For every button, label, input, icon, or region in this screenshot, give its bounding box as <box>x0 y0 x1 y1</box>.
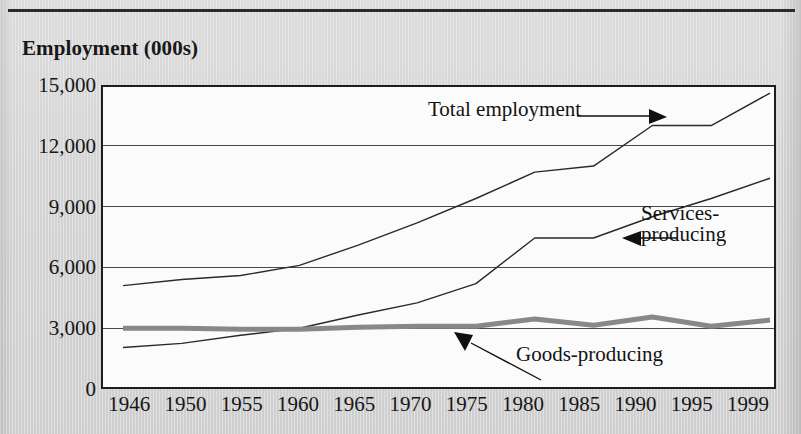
annotation-services-producing: Services- producing <box>641 203 726 245</box>
annotation-total-employment-label: Total employment <box>428 97 581 121</box>
y-axis-tick-label: 15,000 <box>10 73 96 98</box>
y-axis-tick-label: 6,000 <box>10 255 96 280</box>
top-horizontal-rule <box>8 9 795 12</box>
y-axis-tick-label: 0 <box>10 377 96 402</box>
annotation-goods-producing-label: Goods-producing <box>516 342 663 366</box>
annotation-services-producing-line1: Services- <box>641 203 726 224</box>
series-line <box>123 317 770 329</box>
x-axis-tick-label: 1960 <box>270 392 326 426</box>
x-axis-tick-label: 1980 <box>495 392 551 426</box>
x-axis-tick-label: 1950 <box>157 392 213 426</box>
y-axis-tick-label: 12,000 <box>10 133 96 158</box>
annotation-total-employment: Total employment <box>428 99 581 120</box>
annotation-services-producing-line2: producing <box>641 224 726 245</box>
annotation-goods-producing: Goods-producing <box>516 344 663 365</box>
arrow-right-icon <box>649 109 667 124</box>
x-axis-tick-label: 1995 <box>664 392 720 426</box>
page-title: Employment (000s) <box>22 36 198 61</box>
x-axis-tick-label: 1965 <box>326 392 382 426</box>
y-axis-tick-label: 9,000 <box>10 194 96 219</box>
series-line <box>123 93 770 286</box>
x-axis-tick-label: 1975 <box>439 392 495 426</box>
x-axis-tick-label: 1955 <box>214 392 270 426</box>
x-axis-tick-label: 1990 <box>607 392 663 426</box>
x-axis-tick-label: 1970 <box>382 392 438 426</box>
y-axis-tick-label: 3,000 <box>10 316 96 341</box>
arrow-left-icon <box>622 231 641 246</box>
arrow-up-left-icon <box>454 332 473 351</box>
x-axis: 1946195019551960196519701975198019851990… <box>101 392 776 426</box>
x-axis-tick-label: 1985 <box>551 392 607 426</box>
x-axis-tick-label: 1999 <box>720 392 776 426</box>
y-axis: 03,0006,0009,00012,00015,000 <box>4 85 96 389</box>
x-axis-tick-label: 1946 <box>101 392 157 426</box>
